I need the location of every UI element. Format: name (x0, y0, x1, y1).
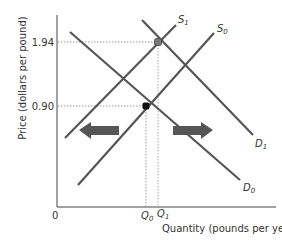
x-tick-q0: Q0 (141, 210, 154, 223)
y-tick-090: 0.90 (32, 101, 54, 112)
new-equilibrium-point (155, 39, 162, 46)
origin-label: 0 (52, 210, 58, 221)
curve-d1 (142, 20, 253, 135)
label-s0: S0 (217, 23, 228, 36)
supply-demand-chart: 1.94 0.90 0 Q0 Q1 Quantity (pounds per y… (0, 0, 282, 241)
y-tick-194: 1.94 (32, 37, 54, 48)
left-shift-arrow (79, 122, 119, 139)
right-shift-arrow (173, 122, 213, 139)
label-s1: S1 (178, 14, 189, 27)
label-d1: D1 (255, 138, 267, 151)
x-axis-title: Quantity (pounds per year) (162, 223, 282, 234)
y-axis-title: Price (dollars per pound) (17, 16, 28, 139)
x-tick-q1: Q1 (157, 208, 169, 221)
label-d0: D0 (243, 182, 256, 195)
initial-equilibrium-point (143, 103, 150, 110)
